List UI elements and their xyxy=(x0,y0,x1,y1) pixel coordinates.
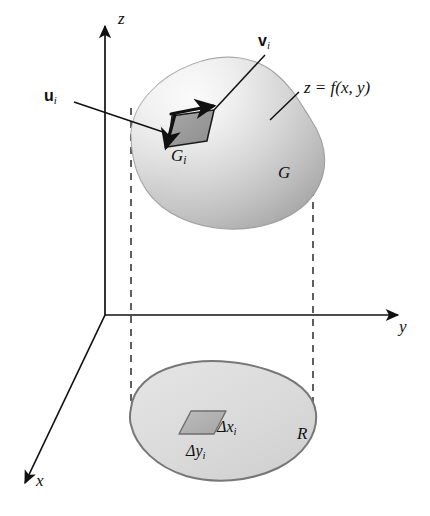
axis-label-x: x xyxy=(36,472,44,489)
region-label-r: R xyxy=(297,425,307,442)
figure-canvas: z y x ui vi z = f(x, y) Gi G R Δxi Δyi xyxy=(0,0,430,516)
delta-x-label-subscript: i xyxy=(234,425,237,437)
vector-label-v-base: v xyxy=(258,32,267,49)
axis-label-y: y xyxy=(399,318,407,335)
surface-label-g: G xyxy=(278,164,290,181)
surface-patch-label-subscript: i xyxy=(183,154,186,167)
surface-patch-label: Gi xyxy=(171,147,187,167)
surface-patch-label-base: G xyxy=(171,146,183,165)
vector-label-u-base: u xyxy=(44,87,54,104)
axis-label-z: z xyxy=(118,10,125,27)
vector-label-u-subscript: i xyxy=(54,94,57,106)
delta-y-label-base: Δy xyxy=(186,442,203,459)
delta-y-label-subscript: i xyxy=(203,449,206,461)
surface-equation-label: z = f(x, y) xyxy=(304,79,370,96)
surface-g xyxy=(131,57,325,229)
vector-label-v: vi xyxy=(258,33,270,51)
delta-x-label-base: Δx xyxy=(217,418,234,435)
surface-g-sheen xyxy=(131,57,325,229)
vector-label-u: ui xyxy=(44,88,57,106)
vector-label-v-subscript: i xyxy=(267,39,270,51)
delta-y-label: Δyi xyxy=(186,443,206,461)
delta-x-label: Δxi xyxy=(217,419,237,437)
axis-x-line xyxy=(25,315,105,483)
